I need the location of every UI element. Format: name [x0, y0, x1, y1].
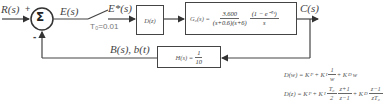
controller-label: D(z)	[144, 17, 156, 24]
plant-denominator: (s+0.6)(s+6)	[213, 19, 247, 27]
zoh-denominator: s	[263, 19, 266, 27]
input-label: R(s)	[1, 3, 19, 15]
plant-block: G₀(s) = 3.600 (s+0.6)(s+6) (1 − e⁻ᵀˢ) s	[185, 2, 297, 35]
dz-z-num: z+1	[338, 85, 352, 94]
ki-subscript: I	[326, 72, 328, 77]
dz-z-fraction: z+1 z−1	[338, 85, 352, 102]
dw-plus-ki: + K	[314, 71, 324, 78]
feedback-signal-label: B(s), b(t)	[110, 43, 150, 55]
input-plus-sign: +	[25, 4, 30, 14]
sampled-error-label: E*(s)	[108, 2, 132, 14]
dz-t-fraction: T₀ 2	[327, 85, 337, 102]
dw-frac-num: 1	[328, 66, 335, 75]
dz-t-num: T₀	[327, 85, 337, 94]
continuous-pid-formula: D(w) = KP + KI 1 w + KD w	[284, 66, 357, 83]
error-label: E(s)	[60, 5, 78, 17]
feedback-denominator: 10	[196, 58, 203, 66]
dz-t-den: 2	[330, 94, 333, 102]
dw-frac-den: w	[330, 75, 334, 83]
discrete-pid-formula: D(z) = KP + KI T₀ 2 z+1 z−1 + KD z−1 zT₀	[284, 85, 383, 102]
dw-lhs: D(w) = K	[284, 71, 309, 78]
dz-plus-kd: + K	[353, 90, 363, 97]
summing-junction-symbol: Σ	[36, 10, 44, 24]
output-label: C(s)	[300, 2, 319, 14]
dz-d-num: z−1	[369, 85, 383, 94]
dz-plus-ki: + K	[313, 90, 323, 97]
dz-ki-subscript: I	[324, 91, 326, 96]
zoh-fraction: (1 − e⁻ᵀˢ) s	[250, 10, 279, 27]
plant-transfer-fraction: 3.600 (s+0.6)(s+6)	[213, 10, 247, 27]
controller-block: D(z)	[136, 5, 164, 35]
dw-integral-fraction: 1 w	[328, 66, 335, 83]
kd-subscript: D	[348, 72, 352, 77]
dw-plus-kd: + K	[337, 71, 347, 78]
sampling-period-label: T₀=0.01	[90, 22, 118, 31]
dz-d-fraction: z−1 zT₀	[369, 85, 383, 102]
dz-d-den: zT₀	[372, 94, 380, 102]
plant-lhs: G₀(s) =	[190, 15, 210, 22]
dz-kp-subscript: P	[309, 91, 312, 96]
kp-subscript: P	[310, 72, 313, 77]
plant-numerator: 3.600	[220, 10, 239, 19]
feedback-fraction: 1 10	[195, 49, 202, 66]
dz-lhs: D(z) = K	[284, 90, 308, 97]
feedback-lhs: H(s) =	[176, 54, 194, 61]
dz-z-den: z−1	[340, 94, 350, 102]
feedback-numerator: 1	[195, 49, 202, 58]
feedback-minus-sign: -	[33, 31, 36, 42]
feedback-block: H(s) = 1 10	[157, 46, 221, 68]
dw-tail: w	[353, 71, 357, 78]
zoh-numerator: (1 − e⁻ᵀˢ)	[250, 10, 279, 19]
dz-kd-subscript: D	[364, 91, 368, 96]
